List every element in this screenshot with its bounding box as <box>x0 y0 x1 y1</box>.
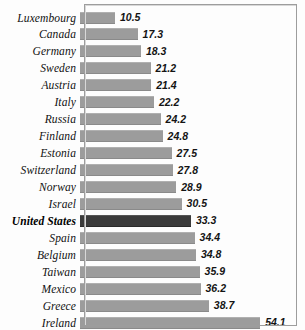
bar-zone: 34.4 <box>80 229 305 246</box>
category-label: Estonia <box>0 147 80 159</box>
value-label: 21.4 <box>156 80 176 91</box>
bar-zone: 24.8 <box>80 128 305 145</box>
category-label: Finland <box>0 130 80 142</box>
category-label: Luxembourg <box>0 12 80 24</box>
value-label: 27.5 <box>177 148 197 159</box>
bar-zone: 28.9 <box>80 179 305 196</box>
bar-row: Germany18.3 <box>0 43 305 60</box>
bar-zone: 35.9 <box>80 263 305 280</box>
bar-row: Norway28.9 <box>0 179 305 196</box>
category-label: Belgium <box>0 249 80 261</box>
category-label: Greece <box>0 300 80 312</box>
category-label: Switzerland <box>0 164 80 176</box>
bar-zone: 27.8 <box>80 162 305 179</box>
bar-row: Switzerland27.8 <box>0 162 305 179</box>
bar-row: Canada17.3 <box>0 26 305 43</box>
bar <box>80 317 260 329</box>
category-label: Canada <box>0 28 80 40</box>
bar <box>80 249 196 261</box>
category-label: Mexico <box>0 283 80 295</box>
bar-zone: 10.5 <box>80 9 305 26</box>
bar-zone: 21.4 <box>80 77 305 94</box>
value-label: 35.9 <box>205 266 225 277</box>
category-label: Spain <box>0 232 80 244</box>
bar-row: United States33.3 <box>0 212 305 229</box>
bar-highlighted <box>80 215 191 227</box>
bar-row: Israel30.5 <box>0 195 305 212</box>
value-label: 10.5 <box>120 12 140 23</box>
value-label: 54.1 <box>265 317 285 328</box>
category-label: United States <box>0 215 80 227</box>
bar-zone: 54.1 <box>80 314 305 330</box>
category-label: Germany <box>0 45 80 57</box>
bar <box>80 232 195 244</box>
value-label: 27.8 <box>178 165 198 176</box>
category-label: Italy <box>0 96 80 108</box>
bar-row: Spain34.4 <box>0 229 305 246</box>
value-label: 28.9 <box>181 182 201 193</box>
bar <box>80 147 172 159</box>
bar-zone: 27.5 <box>80 145 305 162</box>
bar <box>80 28 138 40</box>
bar <box>80 96 154 108</box>
bar-zone: 18.3 <box>80 43 305 60</box>
value-label: 38.7 <box>214 300 234 311</box>
category-label: Austria <box>0 79 80 91</box>
value-label: 36.2 <box>206 283 226 294</box>
bar-row: Russia24.2 <box>0 111 305 128</box>
value-label: 34.8 <box>201 249 221 260</box>
bar-row: Estonia27.5 <box>0 145 305 162</box>
bar-row: Italy22.2 <box>0 94 305 111</box>
value-label: 18.3 <box>146 46 166 57</box>
bar <box>80 181 176 193</box>
bar-zone: 17.3 <box>80 26 305 43</box>
bar-row: Luxembourg10.5 <box>0 9 305 26</box>
bar <box>80 198 182 210</box>
bar <box>80 79 151 91</box>
bar-row: Austria21.4 <box>0 77 305 94</box>
category-label: Russia <box>0 113 80 125</box>
bar-row: Finland24.8 <box>0 128 305 145</box>
chart-rows: Luxembourg10.5Canada17.3Germany18.3Swede… <box>0 0 305 330</box>
value-label: 34.4 <box>200 232 220 243</box>
bar-zone: 30.5 <box>80 195 305 212</box>
value-label: 24.8 <box>168 131 188 142</box>
value-label: 24.2 <box>166 114 186 125</box>
bar-row: Ireland54.1 <box>0 314 305 330</box>
bar-chart: Luxembourg10.5Canada17.3Germany18.3Swede… <box>0 0 305 330</box>
value-label: 21.2 <box>156 63 176 74</box>
bar-row: Mexico36.2 <box>0 280 305 297</box>
bar <box>80 113 161 125</box>
bar <box>80 164 173 176</box>
category-label: Ireland <box>0 317 80 329</box>
bar-zone: 34.8 <box>80 246 305 263</box>
value-label: 33.3 <box>196 215 216 226</box>
bar <box>80 300 209 312</box>
bar-zone: 33.3 <box>80 212 305 229</box>
bar-zone: 24.2 <box>80 111 305 128</box>
bar <box>80 283 201 295</box>
value-label: 17.3 <box>143 29 163 40</box>
bar-zone: 22.2 <box>80 94 305 111</box>
bar <box>80 130 163 142</box>
bar <box>80 62 151 74</box>
bar <box>80 45 141 57</box>
category-label: Sweden <box>0 62 80 74</box>
bar-row: Greece38.7 <box>0 297 305 314</box>
value-label: 22.2 <box>159 97 179 108</box>
category-label: Norway <box>0 181 80 193</box>
bar <box>80 266 200 278</box>
bar-zone: 21.2 <box>80 60 305 77</box>
bar-row: Sweden21.2 <box>0 60 305 77</box>
bar <box>80 12 115 24</box>
value-label: 30.5 <box>187 198 207 209</box>
bar-zone: 36.2 <box>80 280 305 297</box>
category-label: Israel <box>0 198 80 210</box>
category-label: Taiwan <box>0 266 80 278</box>
bar-row: Belgium34.8 <box>0 246 305 263</box>
bar-row: Taiwan35.9 <box>0 263 305 280</box>
bar-zone: 38.7 <box>80 297 305 314</box>
